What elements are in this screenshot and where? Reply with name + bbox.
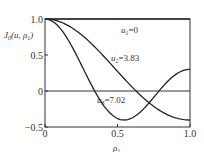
x-tick-label: 1.0 — [184, 128, 197, 139]
y-axis-label: J0(u, ρ1) — [4, 30, 33, 41]
x-axis-label: ρ1 — [112, 143, 120, 152]
y-tick-label: −0.5 — [25, 122, 43, 133]
ticks: 00.51.01.00.50−0.5 — [25, 14, 196, 140]
y-tick-label: 1.0 — [31, 14, 44, 25]
series-label-1: u1=0 — [121, 25, 139, 36]
bessel-chart: 00.51.01.00.50−0.5 J0(u, ρ1) ρ1 u1=0u2=3… — [0, 0, 204, 152]
series-labels: u1=0u2=3.83u3=7.02 — [97, 25, 140, 106]
y-tick-label: 0 — [38, 86, 43, 97]
plot-frame — [45, 19, 190, 127]
series-label-3: u3=7.02 — [97, 95, 125, 106]
series-label-2: u2=3.83 — [111, 53, 140, 64]
x-tick-label: 0 — [43, 128, 48, 139]
x-tick-label: 0.5 — [111, 128, 124, 139]
y-tick-label: 0.5 — [31, 50, 44, 61]
